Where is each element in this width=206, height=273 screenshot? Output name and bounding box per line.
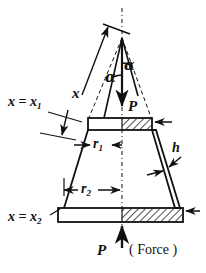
radius-top-label: r1: [93, 137, 103, 153]
axial-coordinate-label: x: [72, 86, 80, 101]
alpha-right-label: α: [124, 58, 135, 72]
leader-x1: [40, 110, 82, 140]
diagram-svg: [0, 0, 206, 273]
alpha-left-label: α: [105, 70, 116, 84]
station-bottom-prefix: x = x: [8, 209, 37, 224]
station-bottom-label: x = x2: [8, 210, 41, 226]
station-top-label: x = x1: [8, 95, 41, 111]
radius-bottom-sub: 2: [86, 188, 91, 198]
bottom-flange: [58, 208, 183, 222]
force-top-label: P: [128, 99, 137, 114]
radius-top-sub: 1: [98, 143, 103, 153]
station-bottom-sub: 2: [37, 216, 42, 226]
top-flange: [88, 118, 152, 130]
force-caption: ( Force ): [129, 243, 177, 257]
station-top-prefix: x = x: [8, 94, 37, 109]
force-bottom-label: P: [97, 243, 106, 258]
thickness-label: h: [172, 141, 180, 155]
radius-bottom-label: r2: [81, 182, 91, 198]
station-top-sub: 1: [37, 101, 42, 111]
figure-canvas: α α x x = x1 x = x2 r1 r2 h P P ( Force …: [0, 0, 206, 273]
